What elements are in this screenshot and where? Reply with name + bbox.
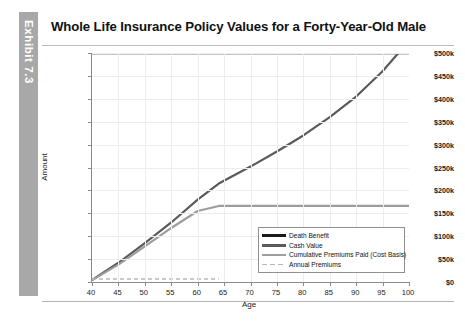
- gridline-vertical: [118, 53, 119, 282]
- x-axis-tick: [383, 282, 384, 286]
- gridline-vertical: [251, 53, 252, 282]
- x-axis-tick: [171, 282, 172, 286]
- y-axis-tick: [88, 145, 92, 146]
- x-axis-tick: [198, 282, 199, 286]
- x-axis-tick: [356, 282, 357, 286]
- x-axis-tick: [409, 282, 410, 286]
- x-tick-label: 80: [298, 288, 306, 297]
- x-axis-title: Age: [242, 300, 256, 309]
- legend-label: Annual Premiums: [289, 260, 341, 269]
- x-axis-tick: [118, 282, 119, 286]
- y-axis-tick: [88, 99, 92, 100]
- legend-swatch: [262, 234, 286, 237]
- x-axis-tick: [277, 282, 278, 286]
- x-axis-tick: [145, 282, 146, 286]
- legend-item: Cash Value: [262, 241, 400, 251]
- y-axis-tick: [88, 122, 92, 123]
- legend-item: Annual Premiums: [262, 260, 400, 270]
- legend-item: Death Benefit: [262, 231, 400, 241]
- legend-label: Cumulative Premiums Paid (Cost Basis): [289, 250, 406, 259]
- exhibit-tab-label: Exhibit 7.3: [19, 20, 38, 84]
- x-tick-label: 90: [351, 288, 359, 297]
- x-tick-label: 75: [272, 288, 280, 297]
- exhibit-tab: Exhibit 7.3: [19, 12, 38, 296]
- y-axis-tick: [88, 190, 92, 191]
- y-axis-tick: [88, 76, 92, 77]
- y-axis-tick: [88, 259, 92, 260]
- x-tick-label: 65: [219, 288, 227, 297]
- legend-swatch: [262, 254, 286, 257]
- y-axis-tick: [88, 168, 92, 169]
- x-tick-label: 55: [166, 288, 174, 297]
- exhibit-page: Exhibit 7.3 Whole Life Insurance Policy …: [0, 0, 465, 322]
- legend-swatch: [262, 264, 286, 266]
- legend-label: Death Benefit: [289, 231, 329, 240]
- x-tick-label: 50: [140, 288, 148, 297]
- x-tick-label: 85: [325, 288, 333, 297]
- page-title: Whole Life Insurance Policy Values for a…: [51, 19, 426, 34]
- y-axis-tick: [88, 53, 92, 54]
- x-axis-tick: [251, 282, 252, 286]
- x-axis-tick: [224, 282, 225, 286]
- gridline-vertical: [171, 53, 172, 282]
- gridline-vertical: [224, 53, 225, 282]
- x-tick-label: 95: [377, 288, 385, 297]
- x-axis-tick: [330, 282, 331, 286]
- legend-label: Cash Value: [289, 241, 323, 250]
- x-tick-label: 45: [113, 288, 121, 297]
- title-area: Whole Life Insurance Policy Values for a…: [42, 16, 454, 46]
- y-axis-tick: [88, 236, 92, 237]
- x-axis-tick: [92, 282, 93, 286]
- x-tick-label: 60: [192, 288, 200, 297]
- legend-item: Cumulative Premiums Paid (Cost Basis): [262, 250, 400, 260]
- x-tick-label: 100: [402, 288, 415, 297]
- y-axis-tick: [88, 213, 92, 214]
- gridline-vertical: [198, 53, 199, 282]
- x-tick-label: 40: [87, 288, 95, 297]
- x-axis-tick: [303, 282, 304, 286]
- chart-area: Amount Age $0$50k$100k$150k$200k$250k$30…: [42, 46, 454, 298]
- chart-legend: Death BenefitCash ValueCumulative Premiu…: [258, 227, 405, 273]
- gridline-vertical: [145, 53, 146, 282]
- legend-swatch: [262, 244, 286, 247]
- x-tick-label: 70: [245, 288, 253, 297]
